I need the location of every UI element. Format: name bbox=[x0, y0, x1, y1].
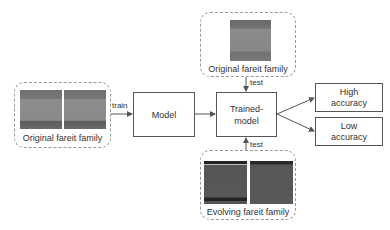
evolving-sample-image-2 bbox=[250, 161, 293, 204]
low-accuracy-line1: Low bbox=[341, 121, 358, 132]
model-box: Model bbox=[133, 92, 195, 137]
test-original-family-label: Original fareit family bbox=[201, 64, 295, 74]
train-family-label: Original fareit family bbox=[15, 133, 110, 143]
edge-to-low bbox=[277, 114, 314, 131]
test-original-family-group: Original fareit family bbox=[200, 12, 296, 77]
low-accuracy-box: Low accuracy bbox=[315, 117, 383, 146]
high-accuracy-box: High accuracy bbox=[315, 83, 383, 112]
test-original-sample-image bbox=[230, 20, 271, 61]
edge-to-high bbox=[277, 98, 314, 114]
high-accuracy-line2: accuracy bbox=[331, 98, 367, 109]
edge-label-train: train bbox=[112, 101, 128, 110]
high-accuracy-line1: High bbox=[340, 87, 359, 98]
trained-model-label-line1: Trained- bbox=[230, 103, 263, 115]
train-sample-image-2 bbox=[64, 90, 106, 129]
trained-model-box: Trained- model bbox=[216, 92, 277, 137]
edge-label-test-top: test bbox=[250, 78, 263, 87]
edge-label-test-bottom: test bbox=[250, 140, 263, 149]
model-label: Model bbox=[152, 109, 177, 121]
test-evolving-family-group: Evolving fareit family bbox=[200, 150, 296, 220]
train-family-group: Original fareit family bbox=[14, 82, 111, 148]
evolving-sample-image-1 bbox=[204, 161, 247, 204]
train-sample-image-1 bbox=[20, 90, 62, 129]
test-evolving-family-label: Evolving fareit family bbox=[201, 207, 295, 217]
low-accuracy-line2: accuracy bbox=[331, 132, 367, 143]
trained-model-label-line2: model bbox=[234, 115, 259, 127]
